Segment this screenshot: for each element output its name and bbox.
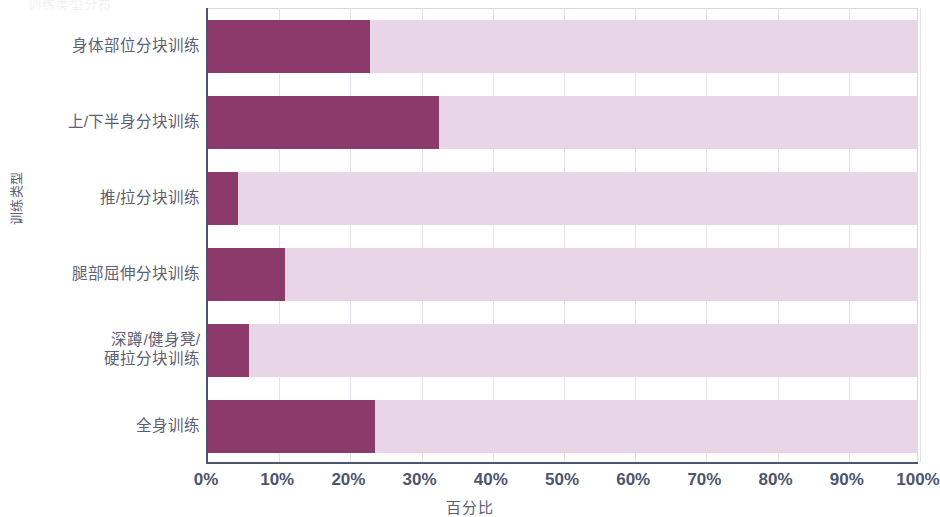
gridline	[422, 8, 423, 462]
bar-segment-filled[interactable]	[208, 96, 439, 149]
gridline	[493, 8, 494, 462]
y-axis-category-label: 身体部位分块训练	[8, 37, 208, 56]
y-axis-category-label: 上/下半身分块训练	[8, 113, 208, 132]
bar-segment-filled[interactable]	[208, 20, 370, 73]
x-axis-tick-label: 30%	[403, 470, 437, 490]
plot-area	[206, 8, 918, 464]
x-axis-tick-label: 60%	[616, 470, 650, 490]
bar-segment-filled[interactable]	[208, 172, 238, 225]
gridline	[279, 8, 280, 462]
bar-row[interactable]	[208, 248, 918, 301]
bar-segment-remainder[interactable]	[370, 20, 918, 73]
bar-segment-remainder[interactable]	[285, 248, 918, 301]
x-axis-tick-label: 80%	[759, 470, 793, 490]
x-axis-tick-label: 70%	[687, 470, 721, 490]
y-axis-category-label: 深蹲/健身凳/ 硬拉分块训练	[8, 331, 208, 369]
bar-row[interactable]	[208, 96, 918, 149]
plot-top-edge	[208, 8, 918, 9]
x-axis-tick-label: 40%	[474, 470, 508, 490]
x-axis-tick-label: 50%	[545, 470, 579, 490]
x-axis-title: 百分比	[0, 496, 939, 517]
bar-segment-remainder[interactable]	[375, 400, 918, 453]
y-axis-category-label: 腿部屈伸分块训练	[8, 265, 208, 284]
bar-segment-remainder[interactable]	[238, 172, 918, 225]
bar-segment-filled[interactable]	[208, 324, 249, 377]
gridline	[706, 8, 707, 462]
bar-row[interactable]	[208, 20, 918, 73]
gridline	[778, 8, 779, 462]
gridline	[920, 8, 921, 462]
x-axis-tick-label: 100%	[896, 470, 939, 490]
bar-row[interactable]	[208, 400, 918, 453]
bar-row[interactable]	[208, 172, 918, 225]
y-axis-category-label: 推/拉分块训练	[8, 189, 208, 208]
x-axis-tick-label: 10%	[260, 470, 294, 490]
x-axis-tick-label: 90%	[830, 470, 864, 490]
bar-segment-remainder[interactable]	[439, 96, 918, 149]
gridline	[564, 8, 565, 462]
bar-segment-filled[interactable]	[208, 248, 285, 301]
bar-segment-remainder[interactable]	[249, 324, 918, 377]
gridline	[635, 8, 636, 462]
x-axis-tick-label: 20%	[331, 470, 365, 490]
bar-segment-filled[interactable]	[208, 400, 375, 453]
x-axis-tick-label: 0%	[194, 470, 219, 490]
gridline	[849, 8, 850, 462]
plot-right-edge	[917, 8, 918, 462]
y-axis-category-label: 全身训练	[8, 417, 208, 436]
y-axis-title: 训练类型	[6, 171, 25, 225]
bar-row[interactable]	[208, 324, 918, 377]
gridline	[350, 8, 351, 462]
